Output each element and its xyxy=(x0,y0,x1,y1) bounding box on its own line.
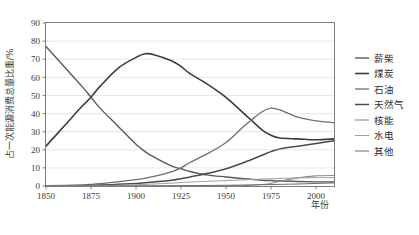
y-tick-label-70: 70 xyxy=(31,54,41,64)
x-tick-label-1900: 1900 xyxy=(127,191,146,201)
y-axis-title: 占一次能源消费总量比重/% xyxy=(4,48,15,159)
x-tick-label-1850: 1850 xyxy=(37,191,56,201)
legend-label-4: 核能 xyxy=(374,115,394,126)
chart-background xyxy=(0,0,419,235)
legend-label-0: 薪柴 xyxy=(374,53,394,64)
legend-label-5: 水电 xyxy=(374,130,394,141)
legend-label-6: 其他 xyxy=(374,146,394,157)
legend-label-1: 煤炭 xyxy=(374,68,394,79)
legend-label-3: 天然气 xyxy=(374,99,404,110)
y-tick-label-90: 90 xyxy=(31,18,41,28)
x-tick-label-1875: 1875 xyxy=(82,191,101,201)
energy-share-line-chart: 1850187519001925195019752000 01020304050… xyxy=(0,0,419,235)
y-tick-label-80: 80 xyxy=(31,36,41,46)
x-tick-label-1950: 1950 xyxy=(217,191,236,201)
y-tick-label-10: 10 xyxy=(31,163,41,173)
y-tick-label-30: 30 xyxy=(31,127,41,137)
y-tick-label-20: 20 xyxy=(31,145,41,155)
y-tick-label-60: 60 xyxy=(31,73,41,83)
y-tick-label-50: 50 xyxy=(31,91,41,101)
x-axis-title: 年份 xyxy=(311,199,329,210)
legend-label-2: 石油 xyxy=(374,84,394,95)
x-tick-label-1925: 1925 xyxy=(172,191,191,201)
x-tick-label-1975: 1975 xyxy=(262,191,281,201)
y-tick-label-0: 0 xyxy=(36,181,41,191)
y-tick-label-40: 40 xyxy=(31,109,41,119)
